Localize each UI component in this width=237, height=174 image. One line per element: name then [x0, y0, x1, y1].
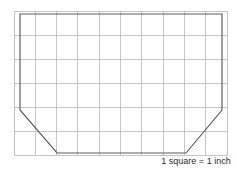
figure-container: 1 square = 1 inch: [0, 0, 237, 174]
scale-caption: 1 square = 1 inch: [157, 156, 235, 167]
grid-shape-figure: [0, 0, 237, 174]
